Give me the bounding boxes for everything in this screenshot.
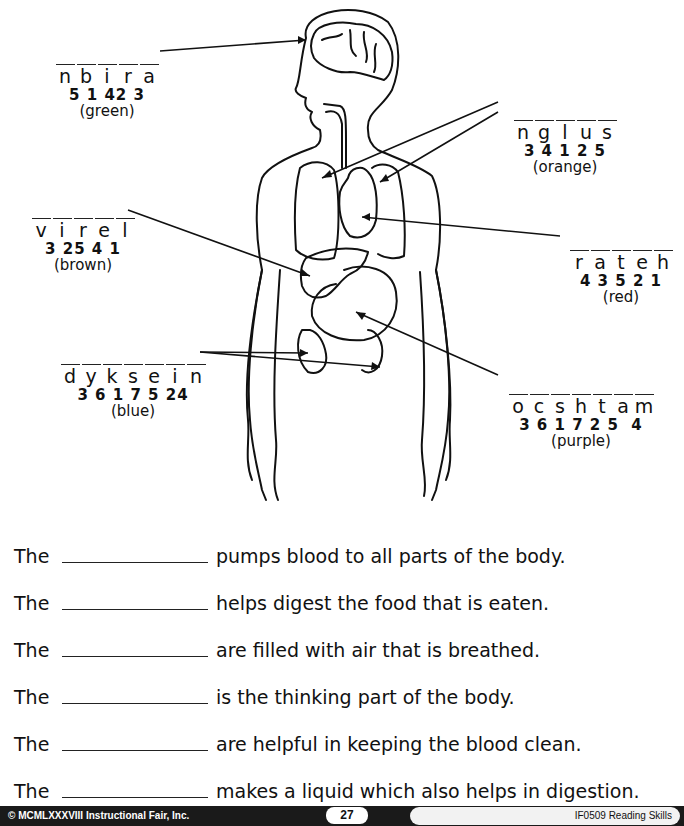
letter-order: 5 1 42 3 <box>52 87 162 104</box>
color-hint: (orange) <box>510 159 620 176</box>
answer-blank[interactable] <box>62 608 208 610</box>
sentence-text: pumps blood to all parts of the body. <box>216 545 565 567</box>
sentence-text: is the thinking part of the body. <box>216 686 515 708</box>
sentence-1: The pumps blood to all parts of the body… <box>14 520 674 567</box>
sentence-4: The is the thinking part of the body. <box>14 661 674 708</box>
label-kidneys: dyksein 3 6 1 7 5 24 (blue) <box>58 364 208 420</box>
color-hint: (blue) <box>58 403 208 420</box>
label-liver: virel 3 25 4 1 (brown) <box>28 218 138 274</box>
sentence-3: The are filled with air that is breathed… <box>14 614 674 661</box>
book-title: IF0509 Reading Skills <box>575 810 672 821</box>
label-brain: nbira 5 1 42 3 (green) <box>52 64 162 120</box>
answer-blank[interactable] <box>62 655 208 657</box>
color-hint: (brown) <box>28 257 138 274</box>
copyright: © MCMLXXXVIII Instructional Fair, Inc. <box>8 810 189 821</box>
scrambled-word: virel <box>28 218 138 241</box>
sentence-prefix: The <box>14 733 62 755</box>
page-number: 27 <box>326 807 368 824</box>
sentence-text: are filled with air that is breathed. <box>216 639 540 661</box>
sentence-text: makes a liquid which also helps in diges… <box>216 780 640 802</box>
sentence-text: helps digest the food that is eaten. <box>216 592 549 614</box>
color-hint: (red) <box>566 289 676 306</box>
letter-order: 3 25 4 1 <box>28 241 138 258</box>
scrambled-word: dyksein <box>58 364 208 387</box>
label-heart: rateh 4 3 5 2 1 (red) <box>566 250 676 306</box>
sentence-6: The makes a liquid which also helps in d… <box>14 755 674 802</box>
color-hint: (purple) <box>506 433 656 450</box>
label-lungs: nglus 3 4 1 2 5 (orange) <box>510 120 620 176</box>
sentence-prefix: The <box>14 545 62 567</box>
sentence-prefix: The <box>14 686 62 708</box>
sentence-prefix: The <box>14 592 62 614</box>
scrambled-word: nglus <box>510 120 620 143</box>
heart <box>339 168 376 238</box>
letter-order: 4 3 5 2 1 <box>566 273 676 290</box>
scrambled-word: rateh <box>566 250 676 273</box>
brain <box>311 22 393 80</box>
letter-order: 3 6 1 7 2 5 4 <box>506 417 656 434</box>
body-outline <box>249 10 450 500</box>
answer-blank[interactable] <box>62 796 208 798</box>
book-title-pill: IF0509 Reading Skills <box>410 807 680 825</box>
sentence-text: are helpful in keeping the blood clean. <box>216 733 581 755</box>
scrambled-word: nbira <box>52 64 162 87</box>
answer-blank[interactable] <box>62 749 208 751</box>
sentence-prefix: The <box>14 639 62 661</box>
sentence-prefix: The <box>14 780 62 802</box>
scrambled-word: ocshtam <box>506 394 656 417</box>
answer-blank[interactable] <box>62 561 208 563</box>
fill-in-sentences: The pumps blood to all parts of the body… <box>14 520 674 802</box>
letter-order: 3 4 1 2 5 <box>510 143 620 160</box>
answer-blank[interactable] <box>62 702 208 704</box>
letter-order: 3 6 1 7 5 24 <box>58 387 208 404</box>
color-hint: (green) <box>52 103 162 120</box>
stomach <box>312 267 397 341</box>
sentence-2: The helps digest the food that is eaten. <box>14 567 674 614</box>
page-footer: © MCMLXXXVIII Instructional Fair, Inc. 2… <box>0 806 684 826</box>
sentence-5: The are helpful in keeping the blood cle… <box>14 708 674 755</box>
label-stomach: ocshtam 3 6 1 7 2 5 4 (purple) <box>506 394 656 450</box>
